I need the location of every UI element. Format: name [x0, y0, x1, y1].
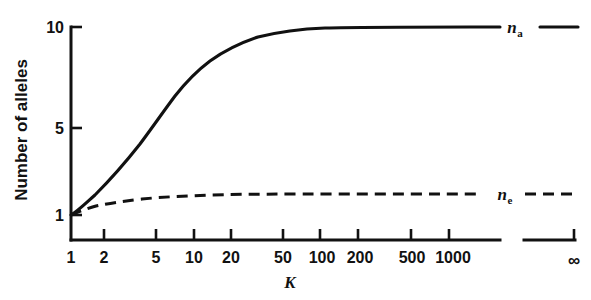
x-tick-label-10: 10 [185, 249, 203, 266]
y-tick-label-10: 10 [46, 19, 64, 36]
series-label-na: na [507, 18, 523, 39]
y-tick-label-1: 1 [55, 207, 64, 224]
curve-na-solid [71, 27, 500, 215]
x-tick-label-1000: 1000 [435, 249, 471, 266]
x-tick-label-200: 200 [347, 249, 374, 266]
x-tick-label-5: 5 [152, 249, 161, 266]
x-tick-label-500: 500 [399, 249, 426, 266]
svg-text:na: na [507, 18, 523, 39]
series-label-na-base: n [507, 18, 516, 37]
x-tick-label-2: 2 [100, 249, 109, 266]
x-tick-label-infinity: ∞ [568, 251, 580, 270]
series-label-ne-sub: e [508, 194, 513, 206]
svg-text:ne: ne [498, 185, 513, 206]
x-tick-label-20: 20 [222, 249, 240, 266]
allele-number-chart: 10 5 1 Number of alleles 1 2 5 10 20 50 … [0, 0, 591, 300]
y-axis-title: Number of alleles [12, 59, 31, 201]
series-label-na-sub: a [517, 27, 523, 39]
series-label-ne-base: n [498, 185, 507, 204]
curve-ne-dashed [71, 194, 480, 215]
series-label-ne: ne [498, 185, 513, 206]
x-tick-label-100: 100 [309, 249, 336, 266]
x-tick-label-50: 50 [274, 249, 292, 266]
x-tick-label-1: 1 [67, 249, 76, 266]
y-tick-label-5: 5 [55, 120, 64, 137]
chart-canvas: 10 5 1 Number of alleles 1 2 5 10 20 50 … [0, 0, 591, 300]
x-axis-title: K [283, 273, 297, 292]
